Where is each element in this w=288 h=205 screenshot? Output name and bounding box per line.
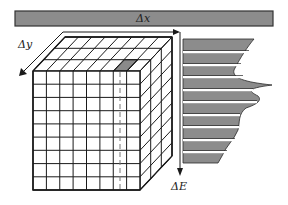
delta-y-label: Δy <box>17 38 33 51</box>
top-arrowhead-icon <box>173 29 180 35</box>
data-cube-diagram: Δx Δy ΔE <box>0 0 288 205</box>
delta-e-label: ΔE <box>170 180 187 193</box>
energy-spectrum <box>183 39 272 163</box>
delta-e-arrowhead-icon <box>177 168 183 176</box>
delta-x-bar: Δx <box>15 11 273 26</box>
voxel-cube <box>33 37 172 190</box>
delta-x-label: Δx <box>135 12 151 25</box>
